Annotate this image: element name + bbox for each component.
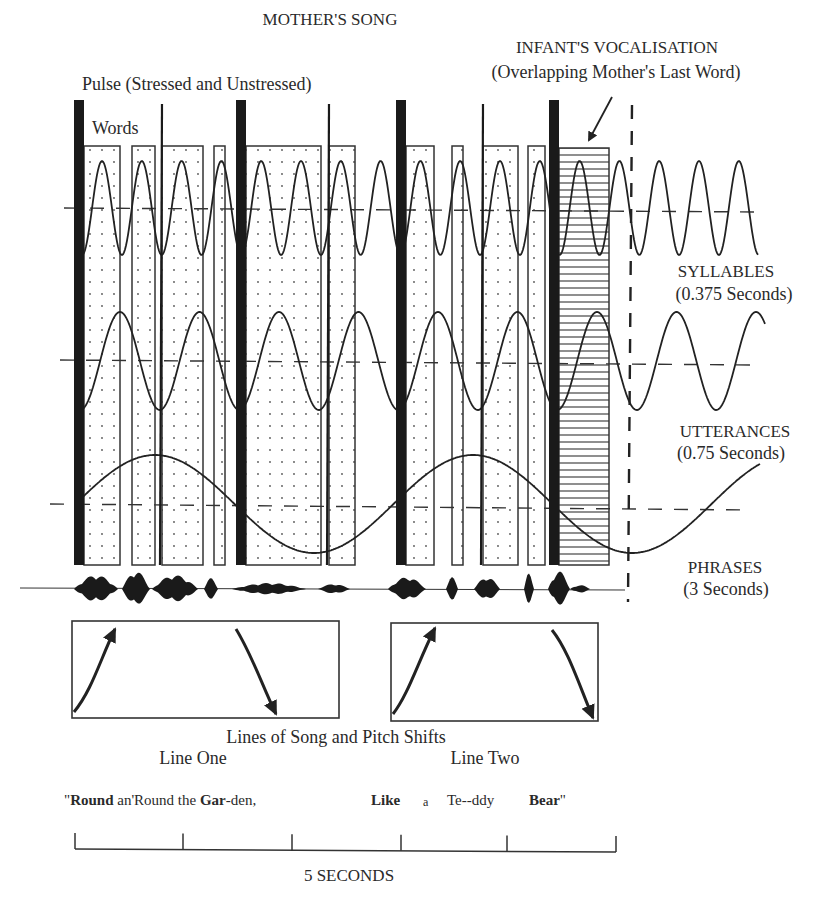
utterances-label: UTTERANCES — [680, 422, 791, 442]
syllables-period: (0.375 Seconds) — [676, 284, 793, 305]
line-two-label: Line Two — [451, 748, 520, 769]
word-box — [483, 146, 518, 565]
lyric-an-round-the: an'Round the — [113, 792, 199, 808]
infant-vocalisation-sublabel: (Overlapping Mother's Last Word) — [492, 62, 741, 83]
syllables-label: SYLLABLES — [678, 262, 774, 282]
line-one-label: Line One — [159, 748, 226, 769]
line-one-rise-arrow — [74, 629, 115, 712]
waveform-burst — [474, 579, 500, 598]
waveform-burst — [74, 576, 118, 600]
words-label: Words — [92, 118, 139, 139]
waveform-burst — [446, 577, 458, 600]
lyric-teddy: Te--ddy — [447, 792, 494, 808]
lyric-teddy-wrap: Te--ddy — [447, 792, 494, 809]
waveform-burst — [204, 578, 218, 598]
stressed-pulse — [396, 100, 406, 565]
lyric-den: -den, — [226, 792, 256, 808]
waveform-burst — [524, 573, 534, 603]
waveform-burst — [152, 575, 198, 601]
diagram-title: MOTHER'S SONG — [263, 10, 398, 30]
stressed-pulse — [74, 100, 84, 565]
stressed-pulse — [236, 100, 246, 565]
waveform-burst — [232, 583, 306, 594]
time-scale-bar — [75, 833, 616, 852]
time-scale-label: 5 SECONDS — [304, 866, 394, 886]
line-two-rise-arrow — [393, 628, 435, 714]
lyric-like-wrap: Like — [371, 792, 400, 809]
waveform-burst — [122, 573, 150, 604]
waveform-burst — [388, 578, 426, 600]
lyric-like: Like — [371, 792, 400, 808]
utterances-period: (0.75 Seconds) — [677, 443, 785, 464]
lyric-a-wrap: a — [423, 795, 428, 810]
lyric-round: Round — [70, 792, 113, 808]
pulse-label: Pulse (Stressed and Unstressed) — [82, 74, 311, 95]
pitch-shifts-label: Lines of Song and Pitch Shifts — [226, 727, 446, 748]
lyrics-line-one: "Round an'Round the Gar-den, — [64, 792, 256, 809]
lyric-bear: Bear — [529, 792, 560, 808]
word-box — [452, 146, 463, 565]
phrases-label: PHRASES — [688, 558, 763, 578]
infant-arrow — [589, 97, 612, 140]
waveform-burst — [548, 571, 570, 604]
lyric-a: a — [423, 795, 428, 809]
infant-end-dashed-line — [628, 105, 632, 602]
stressed-pulse — [549, 100, 559, 565]
phrases-period: (3 Seconds) — [683, 579, 768, 600]
lyric-quote-close: " — [560, 792, 566, 808]
waveform-burst — [570, 585, 590, 592]
audio-waveform — [20, 571, 625, 604]
line-one-fall-arrow — [236, 629, 276, 714]
waveform-burst — [318, 585, 350, 594]
line-two-fall-arrow — [552, 630, 593, 718]
lyric-gar: Gar — [200, 792, 226, 808]
infant-vocalisation-label: INFANT'S VOCALISATION — [516, 38, 718, 58]
lyric-bear-wrap: Bear" — [529, 792, 566, 809]
line-two-pitch-box — [391, 623, 598, 721]
